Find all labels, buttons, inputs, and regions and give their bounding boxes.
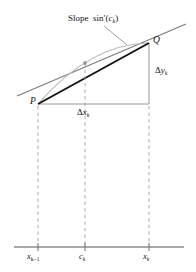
- axis-label-ck: ck: [79, 252, 85, 262]
- delta-x-label: Δxk: [77, 108, 89, 119]
- axis-label-xk-minus-1: xk−1: [27, 252, 40, 262]
- chord-pq: [38, 43, 149, 104]
- axis-mid-subscript: k: [83, 256, 86, 262]
- delta-y-subscript: k: [165, 70, 168, 76]
- delta-x-subscript: k: [87, 112, 90, 118]
- tangent-line: [17, 24, 186, 96]
- slope-annotation-label: Slope sin′(ck): [68, 14, 118, 25]
- figure-canvas: [0, 0, 196, 272]
- axis-right-subscript: k: [147, 256, 150, 262]
- mvt-figure: Slope sin′(ck) P Q Δyk Δxk xk−1 ck xk: [0, 0, 196, 272]
- point-q-label: Q: [153, 36, 160, 46]
- slope-leader-line: [104, 26, 127, 45]
- point-p-label: P: [30, 97, 36, 107]
- slope-function-name: sin: [93, 13, 104, 23]
- slope-paren-close: ): [115, 13, 118, 23]
- delta-y-label: Δyk: [155, 66, 167, 77]
- slope-word: Slope: [68, 13, 89, 23]
- axis-left-subscript: k−1: [31, 256, 40, 262]
- axis-label-xk: xk: [143, 252, 149, 262]
